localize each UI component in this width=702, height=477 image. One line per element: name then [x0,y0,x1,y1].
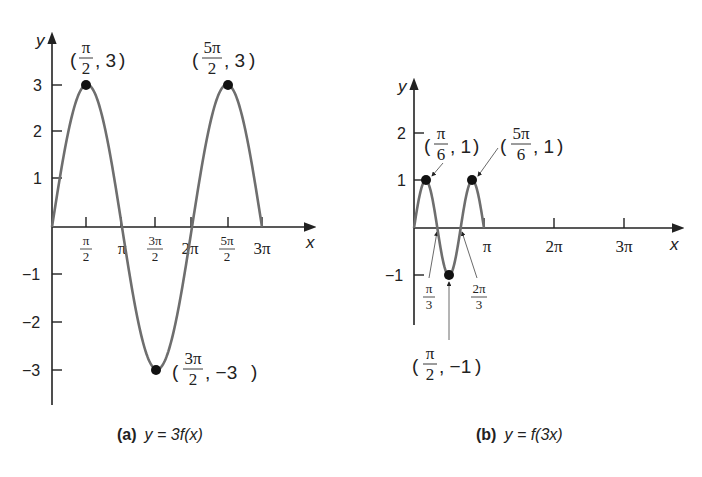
x-tick-label-3pi: 3π [253,239,271,258]
y-tick-label: −1 [22,266,40,283]
svg-text:6: 6 [517,145,526,164]
svg-text:, 1: , 1 [450,136,471,157]
x-tick-label-pi-over-2: π 2 [80,233,92,264]
svg-text:(: ( [500,135,507,156]
annotation-pi-over-6-1: ( π 6 , 1 ) [424,124,479,164]
svg-text:π: π [426,344,435,363]
x-axis-label-b: x [669,235,679,254]
svg-text:(: ( [192,49,199,70]
svg-text:): ) [251,361,257,382]
svg-text:(: ( [412,355,419,376]
figure-canvas: y x 3 2 1 −1 −2 −3 π 2 [0,0,702,477]
graph-b: y x 2 1 −1 π 2π 3π π 3 2π 3 [385,77,679,384]
svg-text:3π: 3π [148,233,162,248]
y-tick-label: 3 [33,77,42,94]
caption-tag-b: (b) [476,426,496,443]
svg-text:5π: 5π [512,124,530,143]
svg-text:2π: 2π [472,281,486,296]
max-point-5pi-over-6 [467,175,477,185]
x-tick-label-pi: π [483,237,492,256]
leader-pi-over-3 [429,232,437,278]
y-tick-label: 1 [397,172,406,189]
svg-text:, 1: , 1 [533,136,554,157]
svg-text:2: 2 [82,59,91,78]
svg-text:3: 3 [426,297,433,312]
svg-text:π: π [437,124,446,143]
pointer-5pi-over-6 [478,148,498,176]
y-tick-label: 2 [33,123,42,140]
svg-text:2: 2 [189,370,198,389]
annotation-pi-over-2-3: ( π 2 , 3 ) [70,38,125,78]
svg-text:π: π [426,281,433,296]
svg-text:, −1: , −1 [439,356,471,377]
x-ticks-b [484,218,624,228]
caption-equation-a: y = 3f(x) [145,426,203,443]
caption-tag-a: (a) [117,426,137,443]
caption-equation-b: y = f(3x) [504,426,562,443]
annotation-pi-over-2-neg1: ( π 2 , −1 ) [412,344,481,384]
svg-text:2: 2 [208,59,217,78]
svg-text:2: 2 [224,249,231,264]
svg-text:(: ( [424,135,431,156]
svg-text:): ) [475,355,481,376]
svg-text:π: π [82,38,91,57]
annotation-3pi-over-2-neg3: ( 3π 2 , −3 ) [172,349,257,389]
svg-text:2: 2 [83,249,90,264]
svg-text:5π: 5π [220,233,234,248]
svg-text:): ) [249,49,255,70]
svg-text:(: ( [172,361,179,382]
max-point-pi-over-6 [421,175,431,185]
min-point-pi-over-2 [444,270,454,280]
x-tick-label-5pi-over-2: 5π 2 [219,233,235,264]
y-tick-label: 2 [397,125,406,142]
svg-text:5π: 5π [203,38,221,57]
svg-text:3π: 3π [184,349,202,368]
svg-text:): ) [473,135,479,156]
x-tick-label-3pi-over-2: 3π 2 [147,233,163,264]
x-tick-label-2pi-over-3: 2π 3 [471,281,487,312]
x-tick-label-pi-over-3: π 3 [423,281,435,312]
svg-text:, 3: , 3 [224,50,245,71]
svg-text:2: 2 [152,249,159,264]
min-point-3pi-over-2 [151,365,161,375]
x-tick-label-3pi: 3π [615,237,633,256]
svg-text:): ) [557,135,563,156]
y-axis-label-a: y [35,31,46,50]
leader-2pi-over-3 [462,232,477,278]
svg-text:2: 2 [426,365,435,384]
annotation-5pi-over-2-3: ( 5π 2 , 3 ) [192,38,255,78]
x-ticks-a [86,217,262,227]
svg-text:(: ( [70,49,77,70]
y-tick-label: 1 [33,170,42,187]
x-tick-label-2pi: 2π [545,237,563,256]
caption-b: (b)y = f(3x) [476,426,563,444]
svg-text:3: 3 [476,297,483,312]
svg-text:, −3: , −3 [205,362,237,383]
svg-text:6: 6 [437,145,446,164]
max-point-pi-over-2 [81,80,91,90]
caption-a: (a)y = 3f(x) [117,426,203,444]
pointer-pi-over-6 [432,163,443,176]
y-tick-label: −1 [385,267,403,284]
x-axis-label-a: x [305,233,315,252]
svg-text:): ) [119,49,125,70]
svg-text:π: π [83,233,90,248]
svg-text:, 3: , 3 [95,50,116,71]
y-tick-label: −3 [22,362,40,379]
annotation-5pi-over-6-1: ( 5π 6 , 1 ) [500,124,563,164]
y-axis-label-b: y [397,77,408,96]
y-tick-label: −2 [22,314,40,331]
max-point-5pi-over-2 [223,80,233,90]
graph-a: y x 3 2 1 −1 −2 −3 π 2 [22,31,315,405]
